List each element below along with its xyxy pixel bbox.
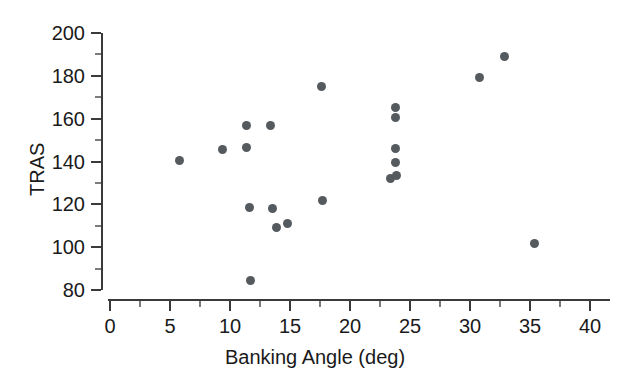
x-axis-line bbox=[108, 299, 610, 301]
y-axis-line bbox=[101, 33, 103, 290]
data-point bbox=[268, 204, 277, 213]
x-tick-minor bbox=[139, 301, 141, 307]
x-tick-label: 40 bbox=[560, 316, 620, 336]
y-tick-minor bbox=[95, 225, 101, 227]
y-tick-major bbox=[91, 161, 101, 163]
x-tick-label: 10 bbox=[200, 316, 260, 336]
x-tick-major bbox=[589, 301, 591, 311]
y-tick-minor bbox=[95, 139, 101, 141]
y-axis-title: TRAS bbox=[26, 142, 49, 195]
data-point bbox=[391, 158, 400, 167]
data-point bbox=[391, 113, 400, 122]
data-point bbox=[392, 171, 401, 180]
data-point bbox=[218, 145, 227, 154]
scatter-chart: TRAS Banking Angle (deg) 801001201401601… bbox=[0, 0, 630, 377]
y-tick-major bbox=[91, 118, 101, 120]
x-tick-minor bbox=[259, 301, 261, 307]
data-point bbox=[317, 82, 326, 91]
x-tick-major bbox=[289, 301, 291, 311]
data-point bbox=[246, 276, 255, 285]
x-tick-minor bbox=[559, 301, 561, 307]
y-tick-label: 100 bbox=[52, 237, 85, 257]
data-point bbox=[475, 73, 484, 82]
x-tick-label: 30 bbox=[440, 316, 500, 336]
y-tick-major bbox=[91, 246, 101, 248]
x-tick-label: 5 bbox=[140, 316, 200, 336]
x-tick-label: 20 bbox=[320, 316, 380, 336]
data-point bbox=[242, 121, 251, 130]
x-tick-major bbox=[469, 301, 471, 311]
x-tick-major bbox=[529, 301, 531, 311]
x-tick-minor bbox=[379, 301, 381, 307]
y-tick-minor bbox=[95, 96, 101, 98]
y-tick-minor bbox=[95, 182, 101, 184]
data-point bbox=[318, 196, 327, 205]
y-tick-label: 160 bbox=[52, 109, 85, 129]
x-tick-label: 0 bbox=[80, 316, 140, 336]
x-tick-major bbox=[349, 301, 351, 311]
data-point bbox=[266, 121, 275, 130]
x-tick-minor bbox=[199, 301, 201, 307]
y-tick-label: 140 bbox=[52, 152, 85, 172]
y-tick-major bbox=[91, 32, 101, 34]
x-tick-major bbox=[109, 301, 111, 311]
data-point bbox=[175, 156, 184, 165]
y-tick-major bbox=[91, 75, 101, 77]
x-tick-major bbox=[409, 301, 411, 311]
y-tick-label: 180 bbox=[52, 66, 85, 86]
x-tick-minor bbox=[319, 301, 321, 307]
x-tick-label: 35 bbox=[500, 316, 560, 336]
data-point bbox=[500, 52, 509, 61]
x-tick-label: 15 bbox=[260, 316, 320, 336]
y-tick-label: 80 bbox=[63, 280, 85, 300]
y-tick-label: 200 bbox=[52, 23, 85, 43]
y-tick-minor bbox=[95, 268, 101, 270]
x-tick-minor bbox=[499, 301, 501, 307]
x-tick-minor bbox=[439, 301, 441, 307]
x-tick-major bbox=[169, 301, 171, 311]
data-point bbox=[283, 219, 292, 228]
data-point bbox=[245, 203, 254, 212]
y-tick-minor bbox=[95, 53, 101, 55]
y-tick-label: 120 bbox=[52, 194, 85, 214]
data-point bbox=[391, 103, 400, 112]
x-tick-label: 25 bbox=[380, 316, 440, 336]
y-tick-major bbox=[91, 203, 101, 205]
x-axis-title: Banking Angle (deg) bbox=[0, 346, 630, 369]
data-point bbox=[391, 144, 400, 153]
data-point bbox=[242, 143, 251, 152]
data-point bbox=[530, 239, 539, 248]
y-tick-major bbox=[91, 289, 101, 291]
x-tick-major bbox=[229, 301, 231, 311]
data-point bbox=[272, 223, 281, 232]
